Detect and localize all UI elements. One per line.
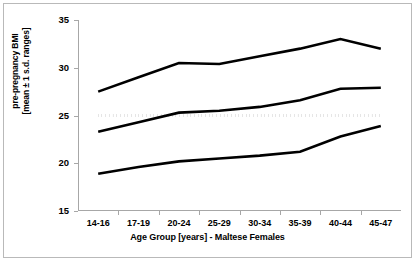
series-line	[98, 126, 381, 174]
series-line	[98, 88, 381, 132]
y-axis-tick-label: 35	[58, 14, 69, 25]
x-axis-tick-label: 25-29	[208, 218, 231, 228]
y-axis-tick-label: 25	[58, 110, 69, 121]
x-axis-tick-label: 35-39	[289, 218, 312, 228]
x-axis-title: Age Group [years] - Maltese Females	[4, 232, 411, 242]
x-axis-tick-label: 20-24	[167, 218, 190, 228]
x-axis-tick-label: 30-34	[248, 218, 271, 228]
y-axis-title: pre-pregnancy BMI [mean ± 1 s.d. ranges]	[6, 0, 36, 151]
y-axis-title-line-2: [mean ± 1 s.d. ranges]	[21, 27, 32, 114]
x-axis-tick-label: 40-44	[329, 218, 352, 228]
y-axis-tick-label: 30	[58, 62, 69, 73]
y-axis-title-line-1: pre-pregnancy BMI	[10, 27, 21, 114]
x-axis-tick-label: 17-19	[127, 218, 150, 228]
y-axis-tick-label: 15	[58, 205, 69, 216]
y-axis-tick: 15	[74, 211, 78, 212]
x-axis-tick-label: 14-16	[87, 218, 110, 228]
chart-frame: pre-pregnancy BMI [mean ± 1 s.d. ranges]…	[3, 3, 412, 258]
y-axis-tick-label: 20	[58, 157, 69, 168]
plot-area: 1520253035 14-1617-1920-2425-2930-3435-3…	[78, 20, 401, 211]
x-axis-tick-label: 45-47	[369, 218, 392, 228]
series-line	[98, 39, 381, 92]
series-lines	[78, 20, 401, 211]
